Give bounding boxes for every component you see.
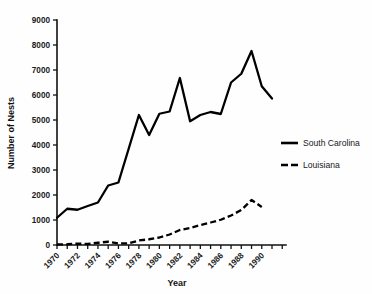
- legend-label-louisiana: Louisiana: [303, 160, 340, 170]
- x-axis-title: Year: [167, 278, 187, 288]
- line-chart: 0100020003000400050006000700080009000 19…: [0, 0, 372, 294]
- y-tick-label: 9000: [32, 16, 51, 25]
- y-tick-label: 2000: [32, 191, 51, 200]
- x-tick-label: 1988: [226, 251, 246, 271]
- y-axis-tick-labels: 0100020003000400050006000700080009000: [32, 16, 51, 250]
- y-tick-label: 1000: [32, 216, 51, 225]
- y-tick-label: 6000: [32, 91, 51, 100]
- y-tick-label: 4000: [32, 141, 51, 150]
- legend-label-south-carolina: South Carolina: [303, 138, 360, 148]
- x-tick-label: 1972: [63, 251, 83, 271]
- y-tick-label: 8000: [32, 41, 51, 50]
- x-tick-label: 1986: [206, 251, 226, 271]
- y-tick-label: 3000: [32, 166, 51, 175]
- x-tick-label: 1980: [145, 251, 165, 271]
- x-tick-label: 1982: [165, 251, 185, 271]
- x-tick-label: 1970: [42, 251, 62, 271]
- chart-container: 0100020003000400050006000700080009000 19…: [0, 0, 372, 294]
- x-tick-label: 1984: [186, 251, 206, 271]
- y-axis-title: Number of Nests: [6, 97, 16, 169]
- y-tick-label: 0: [45, 241, 50, 250]
- series-lines: [57, 51, 272, 245]
- x-tick-label: 1990: [247, 251, 267, 271]
- y-tick-label: 7000: [32, 66, 51, 75]
- x-tick-label: 1974: [83, 251, 103, 271]
- x-tick-label: 1976: [104, 251, 124, 271]
- series-line-south-carolina: [57, 51, 272, 218]
- y-tick-label: 5000: [32, 116, 51, 125]
- x-axis-tick-labels: 1970197219741976197819801982198419861988…: [42, 251, 266, 271]
- x-tick-label: 1978: [124, 251, 144, 271]
- chart-legend: South CarolinaLouisiana: [281, 138, 360, 170]
